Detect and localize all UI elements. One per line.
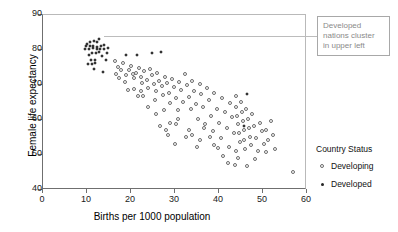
x-tick-mark bbox=[262, 189, 263, 193]
scatter-plot-figure: 4050607080900102030405060 Female life ex… bbox=[0, 0, 398, 232]
x-tick-mark bbox=[306, 189, 307, 193]
x-tick-mark bbox=[218, 189, 219, 193]
x-tick-label: 20 bbox=[115, 194, 145, 204]
legend-item-developed: Developed bbox=[316, 179, 374, 189]
annotation-callout: Developed nations cluster in upper left bbox=[317, 16, 390, 56]
x-tick-label: 10 bbox=[71, 194, 101, 204]
x-tick-label: 50 bbox=[247, 194, 277, 204]
filled-circle-icon bbox=[316, 183, 328, 186]
annotation-line-2: nations cluster bbox=[323, 31, 385, 41]
x-tick-mark bbox=[86, 189, 87, 193]
annotation-connector-line bbox=[104, 36, 317, 37]
x-tick-mark bbox=[130, 189, 131, 193]
annotation-line-1: Developed bbox=[323, 21, 385, 31]
legend-label-developing: Developing bbox=[331, 161, 374, 171]
legend-label-developed: Developed bbox=[331, 179, 372, 189]
legend-item-developing: Developing bbox=[316, 161, 374, 171]
x-tick-mark bbox=[42, 189, 43, 193]
legend-title: Country Status bbox=[316, 144, 374, 154]
open-circle-icon bbox=[316, 164, 328, 168]
legend: Country Status Developing Developed bbox=[316, 144, 374, 197]
plot-area-frame bbox=[42, 14, 306, 189]
x-tick-mark bbox=[174, 189, 175, 193]
annotation-line-3: in upper left bbox=[323, 41, 385, 51]
x-tick-label: 30 bbox=[159, 194, 189, 204]
x-tick-label: 0 bbox=[27, 194, 57, 204]
x-axis-title: Births per 1000 population bbox=[42, 211, 262, 222]
y-axis-title: Female life expectancy bbox=[27, 16, 38, 196]
x-tick-label: 40 bbox=[203, 194, 233, 204]
